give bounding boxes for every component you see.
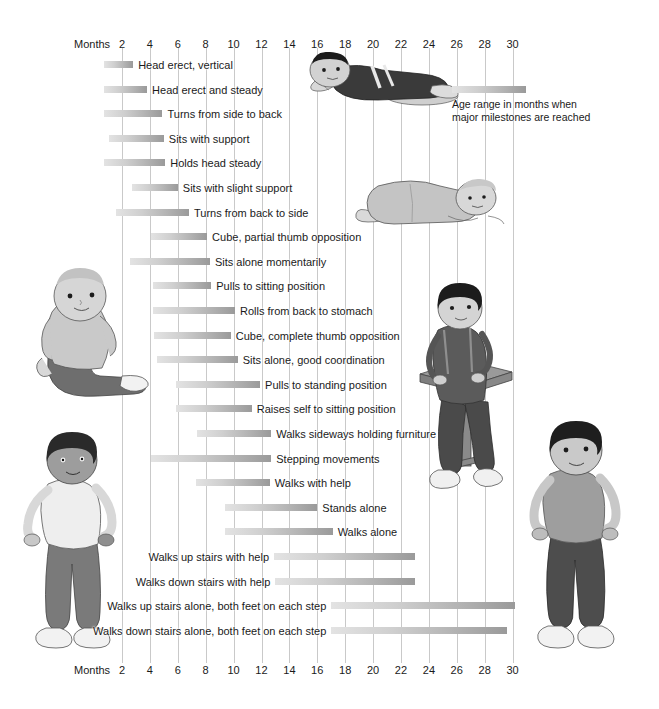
milestone-label: Walks sideways holding furniture bbox=[276, 427, 436, 441]
x-tick-bottom-30: 30 bbox=[506, 664, 518, 676]
milestone-label: Walks down stairs alone, both feet on ea… bbox=[93, 624, 326, 638]
x-tick-top-26: 26 bbox=[451, 38, 463, 50]
milestone-label: Pulls to standing position bbox=[265, 378, 387, 392]
milestone-row: Walks down stairs with help bbox=[0, 573, 659, 591]
milestone-label: Pulls to sitting position bbox=[216, 279, 325, 293]
milestone-label: Sits alone, good coordination bbox=[243, 353, 385, 367]
milestone-bar bbox=[196, 479, 270, 486]
milestone-row: Stepping movements bbox=[0, 450, 659, 468]
x-tick-top-8: 8 bbox=[203, 38, 209, 50]
milestone-bar bbox=[157, 356, 238, 363]
milestone-bar bbox=[275, 578, 415, 585]
milestone-bar bbox=[225, 528, 332, 535]
milestone-bar bbox=[151, 455, 271, 462]
x-tick-top-16: 16 bbox=[311, 38, 323, 50]
x-tick-bottom-28: 28 bbox=[478, 664, 490, 676]
x-tick-bottom-18: 18 bbox=[339, 664, 351, 676]
x-tick-top-28: 28 bbox=[478, 38, 490, 50]
milestone-label: Stepping movements bbox=[276, 452, 379, 466]
milestone-label: Rolls from back to stomach bbox=[240, 304, 373, 318]
milestone-bar bbox=[104, 86, 147, 93]
milestone-label: Sits alone momentarily bbox=[215, 255, 326, 269]
milestone-label: Walks alone bbox=[338, 525, 398, 539]
milestone-bar bbox=[104, 61, 133, 68]
x-tick-bottom-20: 20 bbox=[367, 664, 379, 676]
x-tick-bottom-26: 26 bbox=[451, 664, 463, 676]
milestone-label: Walks up stairs alone, both feet on each… bbox=[107, 599, 326, 613]
milestone-bar bbox=[130, 258, 210, 265]
x-tick-bottom-8: 8 bbox=[203, 664, 209, 676]
x-tick-top-18: 18 bbox=[339, 38, 351, 50]
milestone-row: Sits alone momentarily bbox=[0, 253, 659, 271]
milestone-row: Head erect and steady bbox=[0, 81, 659, 99]
milestone-label: Walks with help bbox=[275, 476, 351, 490]
milestone-label: Raises self to sitting position bbox=[257, 402, 396, 416]
milestone-row: Walks sideways holding furniture bbox=[0, 425, 659, 443]
x-tick-bottom-6: 6 bbox=[175, 664, 181, 676]
milestone-label: Walks down stairs with help bbox=[136, 575, 271, 589]
milestone-bar bbox=[274, 553, 415, 560]
milestone-row: Turns from side to back bbox=[0, 105, 659, 123]
x-tick-top-22: 22 bbox=[395, 38, 407, 50]
milestone-row: Rolls from back to stomach bbox=[0, 302, 659, 320]
x-tick-top-24: 24 bbox=[423, 38, 435, 50]
milestone-bar bbox=[331, 602, 515, 609]
milestone-bar bbox=[132, 184, 178, 191]
x-tick-bottom-14: 14 bbox=[283, 664, 295, 676]
milestone-label: Holds head steady bbox=[170, 156, 261, 170]
x-tick-bottom-12: 12 bbox=[255, 664, 267, 676]
x-axis-title-top: Months bbox=[74, 38, 110, 50]
milestone-row: Cube, complete thumb opposition bbox=[0, 327, 659, 345]
milestone-bar bbox=[176, 381, 260, 388]
milestone-bar bbox=[104, 110, 163, 117]
milestone-bar bbox=[153, 307, 235, 314]
x-tick-top-6: 6 bbox=[175, 38, 181, 50]
x-tick-top-20: 20 bbox=[367, 38, 379, 50]
milestone-bar bbox=[109, 135, 163, 142]
milestone-row: Cube, partial thumb opposition bbox=[0, 228, 659, 246]
x-tick-bottom-2: 2 bbox=[119, 664, 125, 676]
milestone-bar bbox=[104, 159, 165, 166]
milestone-label: Turns from back to side bbox=[194, 206, 309, 220]
x-tick-bottom-16: 16 bbox=[311, 664, 323, 676]
milestone-row: Head erect, vertical bbox=[0, 56, 659, 74]
milestone-row: Holds head steady bbox=[0, 154, 659, 172]
x-tick-top-10: 10 bbox=[227, 38, 239, 50]
x-tick-bottom-4: 4 bbox=[147, 664, 153, 676]
x-tick-top-30: 30 bbox=[506, 38, 518, 50]
milestone-row: Pulls to standing position bbox=[0, 376, 659, 394]
milestone-label: Sits with slight support bbox=[183, 181, 292, 195]
milestone-row: Sits with slight support bbox=[0, 179, 659, 197]
milestone-bar bbox=[153, 282, 212, 289]
milestone-bar bbox=[197, 430, 271, 437]
milestone-row: Walks with help bbox=[0, 474, 659, 492]
milestone-row: Raises self to sitting position bbox=[0, 400, 659, 418]
x-tick-top-4: 4 bbox=[147, 38, 153, 50]
milestone-bar bbox=[331, 627, 507, 634]
x-tick-top-14: 14 bbox=[283, 38, 295, 50]
x-tick-top-2: 2 bbox=[119, 38, 125, 50]
milestone-row: Walks up stairs with help bbox=[0, 548, 659, 566]
milestone-label: Sits with support bbox=[169, 132, 250, 146]
milestone-row: Sits alone, good coordination bbox=[0, 351, 659, 369]
milestone-row: Walks down stairs alone, both feet on ea… bbox=[0, 622, 659, 640]
x-tick-bottom-10: 10 bbox=[227, 664, 239, 676]
milestone-row: Walks alone bbox=[0, 523, 659, 541]
milestone-bar bbox=[151, 233, 207, 240]
x-tick-bottom-22: 22 bbox=[395, 664, 407, 676]
milestone-row: Sits with support bbox=[0, 130, 659, 148]
x-tick-bottom-24: 24 bbox=[423, 664, 435, 676]
milestone-bar bbox=[225, 504, 317, 511]
milestone-label: Cube, partial thumb opposition bbox=[212, 230, 361, 244]
milestone-label: Turns from side to back bbox=[167, 107, 282, 121]
milestone-bar bbox=[154, 332, 231, 339]
milestone-bar bbox=[176, 405, 251, 412]
milestone-row: Stands alone bbox=[0, 499, 659, 517]
x-tick-top-12: 12 bbox=[255, 38, 267, 50]
developmental-milestones-chart: 24681012141618202224262830 2468101214161… bbox=[0, 0, 659, 709]
milestone-label: Walks up stairs with help bbox=[148, 550, 269, 564]
milestone-bar bbox=[116, 209, 189, 216]
milestone-row: Pulls to sitting position bbox=[0, 277, 659, 295]
milestone-row: Walks up stairs alone, both feet on each… bbox=[0, 597, 659, 615]
x-axis-title-bottom: Months bbox=[74, 664, 110, 676]
